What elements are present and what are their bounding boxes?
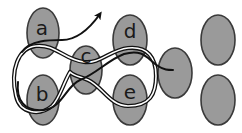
- node-a-label: a: [36, 16, 48, 40]
- node-e-label: e: [124, 80, 136, 104]
- diagram-canvas: a b c d e: [0, 0, 242, 133]
- node-h: [201, 75, 235, 125]
- node-f-ellipse: [158, 48, 192, 98]
- path-diagram: a b c d e: [0, 0, 242, 133]
- node-b-label: b: [36, 82, 49, 106]
- node-d-label: d: [124, 19, 137, 43]
- node-c-label: c: [81, 44, 92, 68]
- node-h-ellipse: [201, 75, 235, 125]
- node-g-ellipse: [201, 15, 235, 65]
- node-f: [158, 48, 192, 98]
- node-g: [201, 15, 235, 65]
